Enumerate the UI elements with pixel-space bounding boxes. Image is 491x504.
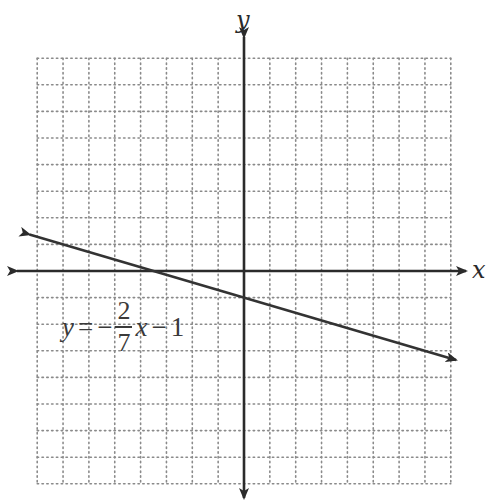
- fraction-numerator: 2: [115, 298, 132, 326]
- y-axis-label: y: [236, 8, 250, 32]
- equation-constant: 1: [171, 312, 185, 343]
- x-axis-label: x: [472, 258, 486, 282]
- equation-variable: x: [135, 312, 147, 343]
- coordinate-plane: [0, 0, 491, 504]
- equation-operator: −: [151, 312, 166, 343]
- equation-sign: −: [97, 312, 112, 343]
- equation-fraction: 2 7: [115, 298, 132, 356]
- equation-lhs: y: [62, 312, 74, 343]
- line-equation-label: y = − 2 7 x − 1: [62, 298, 184, 356]
- equation-equals: =: [78, 312, 93, 343]
- fraction-denominator: 7: [115, 328, 132, 356]
